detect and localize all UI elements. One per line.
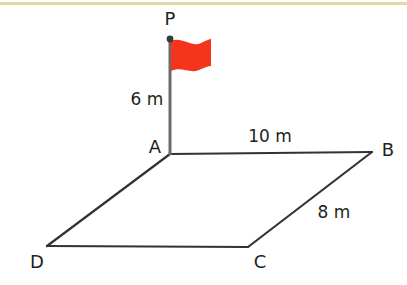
- measure-label-bc: 8 m: [318, 202, 351, 222]
- vertex-label-d: D: [30, 251, 44, 272]
- diagram-canvas: P A B C D 6 m 10 m 8 m: [0, 0, 407, 285]
- edge-bc: [248, 152, 372, 247]
- edge-da: [47, 154, 170, 246]
- measure-label-ab: 10 m: [248, 126, 292, 146]
- edge-cd: [47, 246, 248, 247]
- measure-label-pa: 6 m: [131, 89, 164, 109]
- vertex-label-a: A: [149, 136, 162, 157]
- vertex-label-p: P: [165, 8, 176, 29]
- edge-ab: [170, 152, 372, 154]
- point-marker-p: [167, 36, 174, 43]
- vertex-label-c: C: [254, 251, 267, 272]
- geometry-figure: P A B C D 6 m 10 m 8 m: [0, 0, 407, 285]
- vertex-label-b: B: [382, 139, 394, 160]
- flag-icon: [171, 39, 211, 71]
